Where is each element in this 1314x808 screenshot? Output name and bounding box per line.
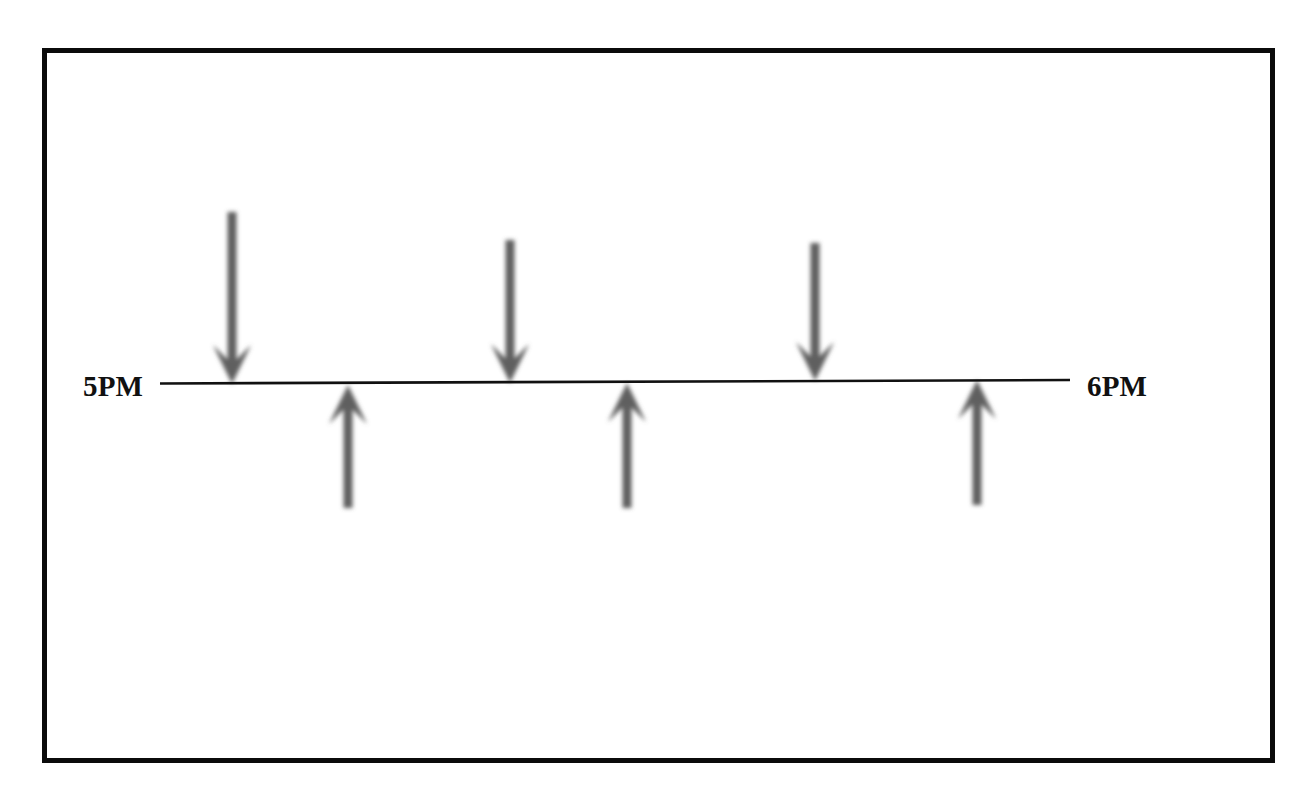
up-arrow-3 xyxy=(958,380,996,505)
timeline-drawing xyxy=(0,0,1314,808)
up-arrow-1 xyxy=(329,385,367,508)
down-arrow-2 xyxy=(491,240,529,383)
timeline-axis xyxy=(160,380,1070,384)
down-arrow-1 xyxy=(213,212,251,384)
down-arrow-3 xyxy=(796,243,834,381)
figure-canvas: 5PM 6PM xyxy=(0,0,1314,808)
up-arrow-2 xyxy=(608,383,646,508)
timeline-end-label: 6PM xyxy=(1087,372,1147,401)
timeline-start-label: 5PM xyxy=(83,372,143,401)
